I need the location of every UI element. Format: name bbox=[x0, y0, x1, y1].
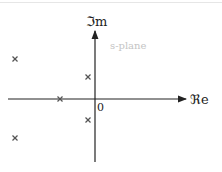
real-axis-label: ℜe bbox=[190, 92, 209, 107]
pole-marker-icon bbox=[13, 136, 18, 141]
origin-label: 0 bbox=[97, 101, 104, 114]
pole-marker-icon bbox=[13, 57, 18, 62]
pole-marker-icon bbox=[86, 75, 91, 80]
s-plane-diagram bbox=[0, 0, 222, 172]
s-plane-label: s-plane bbox=[110, 40, 146, 51]
imag-axis-label: ℑm bbox=[86, 14, 107, 29]
pole-marker-icon bbox=[86, 118, 91, 123]
